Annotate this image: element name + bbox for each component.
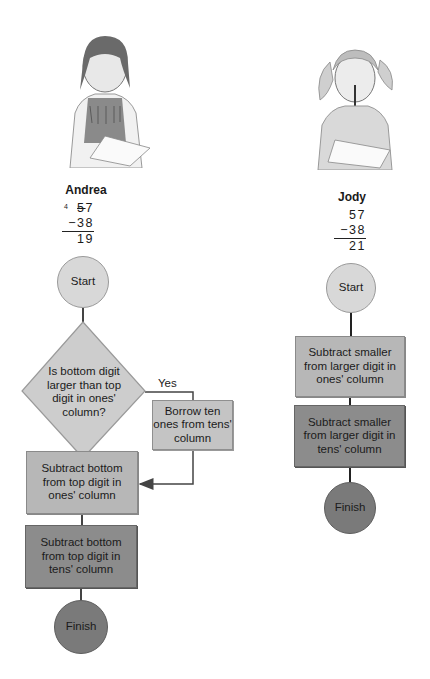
crossed-tens-digit: 5 [77, 201, 85, 215]
jody-tens-step-box: Subtract smaller from larger digit in te… [294, 405, 405, 467]
jody-problem-top: 57 [334, 208, 366, 223]
andrea-ones-step-box: Subtract bottom from top digit in ones' … [26, 451, 138, 514]
andrea-finish-node: Finish [54, 600, 108, 654]
borrow-mark: 4 [64, 199, 69, 214]
andrea-decision-text: Is bottom digit larger than top digit in… [36, 360, 132, 424]
jody-start-node: Start [326, 263, 376, 313]
jody-problem-bottom: −38 [334, 223, 366, 239]
andrea-borrow-box: Borrow ten ones from tens' column [152, 400, 233, 450]
andrea-problem-top: 457 [62, 201, 94, 216]
andrea-tens-step-box: Subtract bottom from top digit in tens' … [25, 525, 137, 588]
ones-digit: 7 [86, 201, 94, 215]
jody-finish-node: Finish [324, 482, 376, 534]
andrea-problem: 457 −38 19 [62, 201, 94, 247]
andrea-problem-bottom: −38 [62, 216, 94, 232]
andrea-illustration [50, 28, 160, 168]
andrea-name: Andrea [46, 183, 126, 197]
jody-name: Jody [312, 190, 392, 204]
andrea-start-node: Start [57, 256, 109, 308]
jody-problem-answer: 21 [334, 239, 366, 254]
yes-label: Yes [158, 377, 177, 389]
jody-illustration [300, 40, 410, 170]
andrea-problem-answer: 19 [62, 232, 94, 247]
jody-ones-step-box: Subtract smaller from larger digit in on… [295, 336, 405, 397]
jody-problem: 57 −38 21 [334, 208, 366, 254]
